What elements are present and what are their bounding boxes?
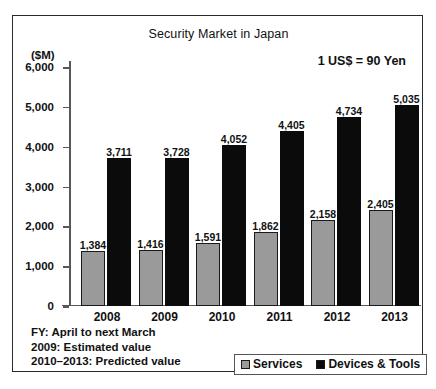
legend-item[interactable]: Services — [241, 357, 302, 371]
x-axis-tick-label: 2010 — [209, 310, 236, 324]
bar-group: 1,5914,0522010 — [196, 67, 248, 306]
chart-container: Security Market in Japan ($M) 1 US$ = 90… — [0, 0, 436, 389]
y-axis-tick: 2,000 — [63, 226, 69, 228]
bar-devices-tools[interactable]: 3,728 — [165, 158, 189, 306]
chart-title: Security Market in Japan — [13, 27, 424, 41]
legend-swatch-icon — [241, 360, 250, 369]
x-axis-tick-label: 2009 — [151, 310, 178, 324]
y-axis-tick-label: 3,000 — [25, 181, 54, 193]
exchange-rate-note: 1 US$ = 90 Yen — [318, 54, 406, 68]
chart-legend: ServicesDevices & Tools — [234, 354, 427, 375]
footnotes: FY: April to next March2009: Estimated v… — [31, 325, 181, 369]
bar-services[interactable]: 2,158 — [311, 220, 335, 306]
legend-item[interactable]: Devices & Tools — [316, 357, 420, 371]
y-axis-tick-label: 5,000 — [25, 101, 54, 113]
footnote-line: 2009: Estimated value — [31, 340, 181, 355]
y-axis-tick-label: 0 — [48, 300, 54, 312]
bar-value-label: 3,711 — [106, 146, 132, 158]
bar-services[interactable]: 2,405 — [369, 210, 393, 306]
legend-swatch-icon — [316, 360, 325, 369]
bar-group: 1,8624,4052011 — [254, 67, 306, 306]
legend-item-label: Devices & Tools — [328, 357, 420, 371]
bar-devices-tools[interactable]: 4,405 — [280, 131, 304, 306]
y-axis-tick-label: 1,000 — [25, 260, 54, 272]
bar-group: 2,4055,0352013 — [369, 67, 421, 306]
bar-devices-tools[interactable]: 4,052 — [222, 145, 246, 306]
bar-value-label: 1,862 — [252, 220, 278, 232]
y-axis-tick: 4,000 — [63, 147, 69, 149]
bar-devices-tools[interactable]: 3,711 — [107, 158, 131, 306]
bar-value-label: 1,384 — [80, 239, 106, 251]
bar-services[interactable]: 1,591 — [196, 243, 220, 306]
y-axis-tick: 5,000 — [63, 107, 69, 109]
bar-value-label: 2,158 — [310, 208, 336, 220]
y-axis-tick: 3,000 — [63, 187, 69, 189]
bar-devices-tools[interactable]: 4,734 — [337, 117, 361, 306]
bar-devices-tools[interactable]: 5,035 — [395, 105, 419, 306]
y-axis-tick: 0 — [63, 306, 69, 308]
y-axis-tick: 6,000 — [63, 67, 69, 69]
y-axis-tick-label: 4,000 — [25, 141, 54, 153]
x-axis-tick-label: 2013 — [381, 310, 408, 324]
bar-services[interactable]: 1,416 — [139, 250, 163, 306]
plot-area: 01,0002,0003,0004,0005,0006,000 1,3843,7… — [69, 67, 421, 306]
bar-value-label: 4,052 — [221, 133, 247, 145]
footnote-line: 2010–2013: Predicted value — [31, 354, 181, 369]
bar-value-label: 5,035 — [393, 93, 419, 105]
y-axis-tick-label: 2,000 — [25, 220, 54, 232]
bar-services[interactable]: 1,384 — [81, 251, 105, 306]
bar-value-label: 4,734 — [336, 105, 362, 117]
y-axis-unit-label: ($M) — [31, 49, 55, 61]
bar-value-label: 2,405 — [367, 198, 393, 210]
chart-frame: Security Market in Japan ($M) 1 US$ = 90… — [12, 15, 423, 372]
x-axis-tick-label: 2008 — [94, 310, 121, 324]
bar-value-label: 1,416 — [137, 238, 163, 250]
y-axis-line — [69, 61, 71, 306]
y-axis-tick: 1,000 — [63, 266, 69, 268]
bar-value-label: 4,405 — [278, 119, 304, 131]
bar-value-label: 1,591 — [195, 231, 221, 243]
bar-group: 1,3843,7112008 — [81, 67, 133, 306]
bar-services[interactable]: 1,862 — [254, 232, 278, 306]
bar-group: 2,1584,7342012 — [311, 67, 363, 306]
footnote-line: FY: April to next March — [31, 325, 181, 340]
y-axis-tick-label: 6,000 — [25, 61, 54, 73]
bar-group: 1,4163,7282009 — [139, 67, 191, 306]
bar-value-label: 3,728 — [163, 146, 189, 158]
x-axis-tick-label: 2011 — [266, 310, 292, 324]
legend-item-label: Services — [253, 357, 302, 371]
x-axis-tick-label: 2012 — [324, 310, 351, 324]
